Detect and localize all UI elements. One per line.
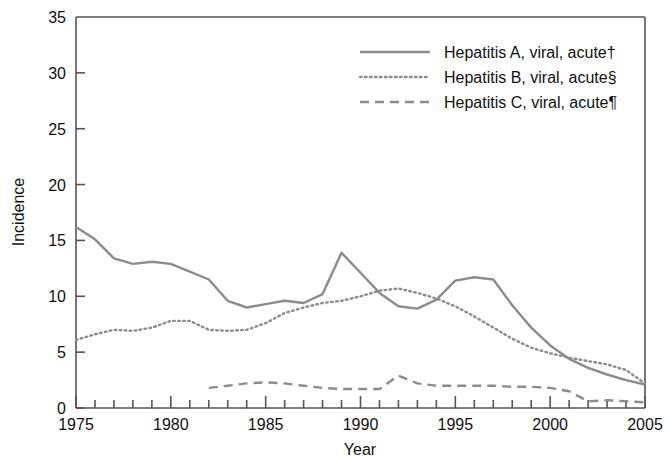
incidence-line-chart: 05101520253035 1975198019851990199520002… bbox=[0, 0, 670, 464]
y-tick-label: 20 bbox=[48, 177, 66, 194]
y-tick-label: 35 bbox=[48, 9, 66, 26]
y-tick-label: 5 bbox=[57, 344, 66, 361]
legend-label: Hepatitis A, viral, acute† bbox=[444, 44, 616, 61]
x-tick-label: 1995 bbox=[438, 416, 474, 433]
y-tick-label: 0 bbox=[57, 400, 66, 417]
legend-label: Hepatitis B, viral, acute§ bbox=[444, 69, 617, 86]
x-tick-label: 2000 bbox=[532, 416, 568, 433]
y-tick-label: 15 bbox=[48, 232, 66, 249]
y-tick-label: 10 bbox=[48, 288, 66, 305]
y-tick-label: 25 bbox=[48, 121, 66, 138]
y-tick-label: 30 bbox=[48, 65, 66, 82]
y-axis-title: Incidence bbox=[10, 178, 27, 247]
x-tick-label: 1975 bbox=[58, 416, 94, 433]
chart-canvas: 05101520253035 1975198019851990199520002… bbox=[0, 0, 670, 464]
x-tick-label: 1980 bbox=[153, 416, 189, 433]
legend-label: Hepatitis C, viral, acute¶ bbox=[444, 94, 617, 111]
x-tick-label: 2005 bbox=[627, 416, 663, 433]
x-axis-title: Year bbox=[344, 441, 377, 458]
x-tick-label: 1985 bbox=[248, 416, 284, 433]
x-tick-label: 1990 bbox=[343, 416, 379, 433]
